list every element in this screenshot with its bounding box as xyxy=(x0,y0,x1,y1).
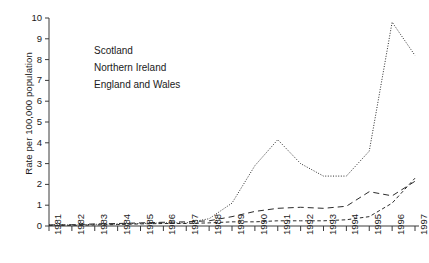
legend-label-scotland: Scotland xyxy=(94,45,133,56)
legend-item-scotland: Scotland xyxy=(94,42,180,59)
x-axis-ticks xyxy=(49,226,415,231)
y-axis-ticks xyxy=(45,18,49,226)
legend-label-england-and-wales: England and Wales xyxy=(94,79,180,90)
legend-item-northern-ireland: Northern Ireland xyxy=(94,59,180,76)
legend-label-northern-ireland: Northern Ireland xyxy=(94,62,166,73)
legend-item-england-and-wales: England and Wales xyxy=(94,76,180,93)
series-line-england-and-wales xyxy=(49,181,415,225)
legend: Scotland Northern Ireland England and Wa… xyxy=(94,42,180,93)
series-line-northern-ireland xyxy=(49,178,415,225)
